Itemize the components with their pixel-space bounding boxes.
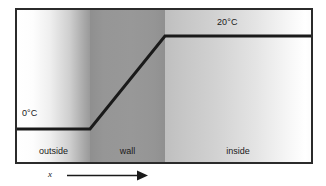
x-axis-group: x [15, 166, 313, 186]
temperature-curve [17, 10, 311, 162]
diagram-canvas: 0°C 20°C outside wall inside x [0, 0, 326, 186]
temperature-profile-diagram: 0°C 20°C outside wall inside [15, 8, 313, 164]
right-arrow-icon [65, 166, 185, 184]
region-label-outside: outside [17, 146, 90, 156]
x-axis-label: x [48, 169, 52, 179]
region-label-wall: wall [90, 146, 165, 156]
region-label-inside: inside [165, 146, 311, 156]
label-outside-temperature: 0°C [22, 108, 37, 119]
label-inside-temperature: 20°C [217, 17, 238, 28]
